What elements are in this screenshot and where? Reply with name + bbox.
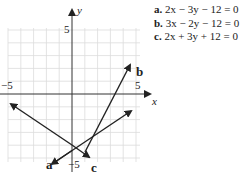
grid (8, 28, 140, 162)
tick-x-pos: 5 (135, 79, 141, 91)
equation-c: c. 2x + 3y + 12 = 0 (154, 30, 239, 44)
tick-x-neg: −5 (1, 79, 13, 91)
line-c (11, 104, 72, 145)
equation-label: c. (154, 30, 162, 42)
line-label-a: a (46, 157, 53, 173)
line-label-c: c (91, 160, 97, 176)
equation-a: a. 2x − 3y − 12 = 0 (154, 3, 239, 17)
equation-label: b. (154, 17, 163, 29)
equation-b: b. 3x − 2y − 12 = 0 (154, 17, 239, 31)
equation-label: a. (154, 3, 162, 15)
lines (11, 65, 131, 164)
equation-list: a. 2x − 3y − 12 = 0 b. 3x − 2y − 12 = 0 … (154, 3, 239, 44)
equation-text: 3x − 2y − 12 = 0 (166, 17, 240, 29)
tick-y-neg: −5 (68, 158, 80, 170)
y-axis-label: y (77, 4, 82, 16)
equation-text: 2x − 3y − 12 = 0 (165, 3, 239, 15)
equation-text: 2x + 3y + 12 = 0 (164, 30, 238, 42)
line-label-b: b (136, 64, 143, 80)
line-c-end (72, 145, 89, 157)
x-axis-label: x (152, 95, 157, 107)
tick-y-pos: 5 (64, 23, 70, 35)
